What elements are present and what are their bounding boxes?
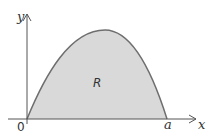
root-a-label: a — [164, 117, 172, 132]
y-axis-label: y — [16, 9, 25, 24]
origin-label: 0 — [17, 120, 25, 134]
x-axis-label: x — [198, 117, 206, 132]
area-under-curve-diagram: y x 0 a R — [0, 0, 212, 134]
region-label: R — [93, 76, 101, 90]
